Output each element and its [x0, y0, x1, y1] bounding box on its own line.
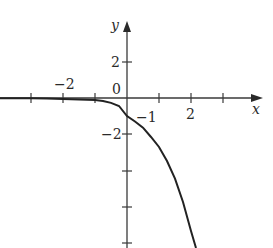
- x-tick-label-neg2: −2: [54, 76, 75, 92]
- x-axis-label: x: [252, 101, 260, 117]
- origin-label: 0: [112, 81, 121, 97]
- x-tick-label-2: 2: [186, 106, 195, 122]
- graph: y x 0 −2 2 2 −2 −1: [0, 0, 273, 248]
- y-axis-label: y: [110, 17, 120, 33]
- y-axis-arrow-icon: [123, 21, 131, 32]
- curve-neg-exp: [0, 98, 196, 248]
- intercept-label: −1: [136, 109, 157, 125]
- y-tick-label-2: 2: [111, 54, 120, 70]
- y-tick-label-neg2: −2: [101, 126, 122, 142]
